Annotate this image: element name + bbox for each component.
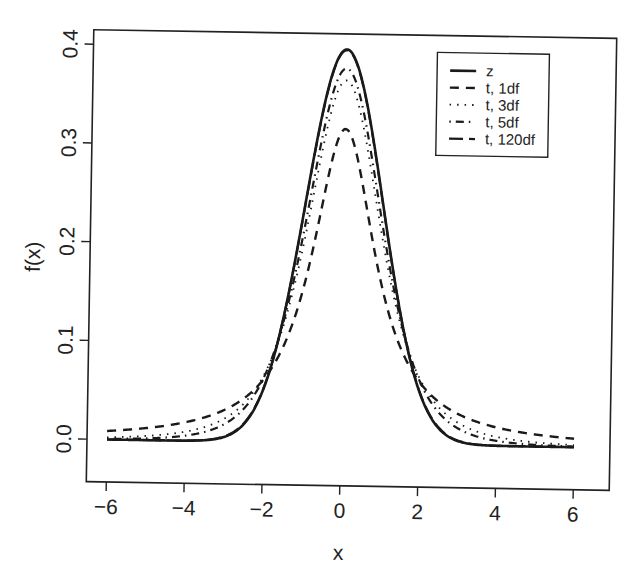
legend-label: t, 1df — [486, 79, 520, 97]
y-axis-label: f(x) — [21, 241, 44, 272]
x-tick-label: 6 — [567, 503, 579, 526]
curve-t-1df — [107, 125, 579, 439]
x-tick-label: 2 — [411, 500, 423, 523]
legend-label: z — [486, 62, 494, 79]
legend-label: t, 3df — [485, 96, 519, 114]
legend-label: t, 5df — [485, 113, 519, 131]
x-tick-label: 0 — [333, 499, 345, 522]
plot-root: −6−4−20246 0.00.10.20.30.4 x f(x) zt, 1d… — [16, 28, 617, 568]
y-tick-label: 0.3 — [57, 128, 80, 158]
legend-label: t, 120df — [485, 130, 536, 148]
x-tick-label: −2 — [249, 497, 273, 520]
x-tick-label: 4 — [489, 501, 501, 524]
x-tick-label: −4 — [172, 496, 197, 519]
y-tick-label: 0.2 — [55, 226, 78, 256]
x-axis-label: x — [333, 541, 344, 564]
legend: zt, 1dft, 3dft, 5dft, 120df — [436, 52, 550, 157]
y-tick-label: 0.4 — [58, 29, 81, 59]
x-tick-label: −6 — [94, 495, 118, 518]
y-tick-label: 0.0 — [52, 424, 75, 454]
y-tick-label: 0.1 — [53, 325, 76, 355]
density-plot: −6−4−20246 0.00.10.20.30.4 x f(x) zt, 1d… — [0, 0, 639, 572]
